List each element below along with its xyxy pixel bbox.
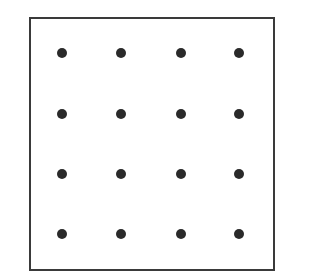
grid-dot [116,48,126,58]
grid-dot [57,48,67,58]
grid-dot [176,169,186,179]
grid-dot [176,229,186,239]
grid-dot [116,169,126,179]
grid-dot [176,48,186,58]
grid-dot [57,169,67,179]
grid-dot [116,109,126,119]
grid-dot [234,48,244,58]
grid-dot [176,109,186,119]
grid-dot [116,229,126,239]
grid-dot [234,229,244,239]
grid-dot [57,229,67,239]
grid-dot [234,109,244,119]
grid-dot [57,109,67,119]
grid-dot [234,169,244,179]
